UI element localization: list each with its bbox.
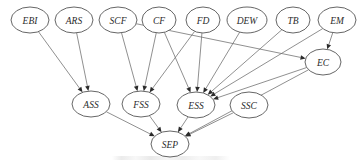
edge-ess-to-sep (181, 117, 188, 128)
arrowhead-ec-to-ess (213, 95, 219, 99)
node-label-tb: TB (287, 16, 298, 26)
edge-fss-to-sep (149, 116, 158, 128)
node-em[interactable]: EM (318, 7, 356, 33)
edge-ars-to-ass (77, 33, 88, 86)
node-ars[interactable]: ARS (55, 7, 93, 33)
node-label-ec: EC (316, 58, 330, 68)
node-dew[interactable]: DEW (227, 7, 267, 33)
edge-dew-to-ess (206, 32, 240, 88)
node-cf[interactable]: CF (142, 7, 176, 33)
edge-cf-to-ess (164, 32, 188, 87)
edge-tb-to-ess (212, 30, 282, 92)
arrowhead-fd-to-ess (195, 87, 200, 92)
node-fss[interactable]: FSS (122, 91, 160, 117)
node-scf[interactable]: SCF (99, 7, 137, 33)
arrowhead-ars-to-ass (85, 86, 90, 92)
node-sep[interactable]: SEP (151, 131, 189, 157)
arrowhead-ebi-to-ass (78, 87, 83, 93)
node-label-ssc: SSC (241, 101, 258, 111)
node-ssc[interactable]: SSC (230, 92, 268, 118)
edge-fd-to-fss (153, 31, 195, 88)
node-label-em: EM (329, 16, 345, 26)
arrowhead-dew-to-ess (203, 87, 208, 93)
caption-artifact (112, 156, 230, 160)
node-ess[interactable]: ESS (177, 92, 215, 118)
arrowhead-cf-to-fss (143, 86, 147, 92)
node-ebi[interactable]: EBI (11, 7, 49, 33)
node-label-ess: ESS (187, 101, 204, 111)
node-fd[interactable]: FD (186, 7, 220, 33)
edge-cf-to-fss (145, 33, 156, 86)
nodes-group: EBIARSSCFCFFDDEWTBEMECASSFSSESSSSCSEP (11, 7, 356, 157)
diagram-canvas: EBIARSSCFCFFDDEWTBEMECASSFSSESSSSCSEP (0, 0, 358, 162)
node-ass[interactable]: ASS (72, 91, 110, 117)
node-label-ass: ASS (82, 100, 99, 110)
node-label-ebi: EBI (22, 16, 39, 26)
edge-scf-to-fss (122, 33, 137, 86)
arrowhead-fss-to-sep (157, 127, 162, 133)
arrowhead-fd-to-fss (150, 87, 155, 93)
edge-fd-to-ess (198, 33, 202, 87)
dag-graph: EBIARSSCFCFFDDEWTBEMECASSFSSESSSSCSEP (0, 0, 358, 162)
edge-ebi-to-ass (38, 32, 79, 89)
node-label-fss: FSS (132, 100, 149, 110)
node-label-scf: SCF (110, 16, 127, 26)
edge-ec-to-ess (218, 68, 307, 98)
node-label-dew: DEW (236, 16, 259, 26)
edges-group (38, 24, 332, 137)
node-label-ars: ARS (65, 16, 83, 26)
arrowhead-em-to-ec (327, 44, 331, 50)
node-label-cf: CF (153, 16, 165, 26)
node-tb[interactable]: TB (276, 7, 310, 33)
arrowhead-scf-to-fss (134, 86, 138, 92)
arrowhead-scf-to-ec (300, 55, 306, 60)
node-ec[interactable]: EC (305, 49, 341, 75)
node-label-sep: SEP (162, 140, 179, 150)
edge-em-to-ec (329, 33, 333, 45)
arrowhead-ess-to-sep (178, 127, 183, 133)
node-label-fd: FD (196, 16, 210, 26)
